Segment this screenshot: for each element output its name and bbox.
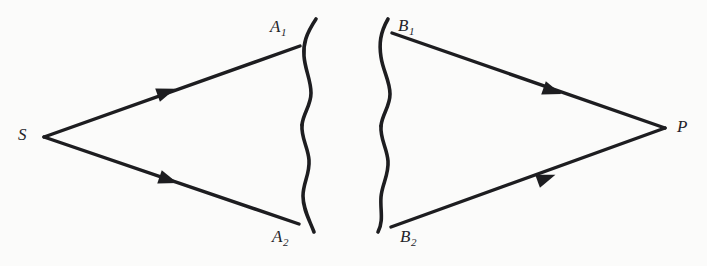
label-point-p: P <box>677 118 687 135</box>
ray-b2-to-p <box>391 128 665 227</box>
ray-s-to-a2 <box>44 137 299 224</box>
diagram-canvas: S A1 A2 B1 B2 P <box>0 0 707 266</box>
label-slit-a1-text: A <box>270 17 280 36</box>
barrier-a-lower-segment <box>302 125 314 232</box>
barrier-a-upper-segment <box>302 19 316 125</box>
label-slit-b1: B1 <box>398 17 414 34</box>
barrier-b-upper-segment <box>380 19 390 126</box>
label-source-s-text: S <box>18 125 27 144</box>
label-slit-b1-text: B <box>398 16 408 35</box>
label-slit-b2: B2 <box>400 228 416 245</box>
barrier-b <box>378 19 390 232</box>
ray-s-to-a2-arrowhead <box>157 170 179 189</box>
label-point-p-text: P <box>677 117 687 136</box>
label-slit-a2: A2 <box>272 228 288 245</box>
diagram-svg <box>0 0 707 266</box>
ray-s-to-a1 <box>44 46 300 137</box>
ray-b1-to-p-line <box>392 33 665 128</box>
label-slit-b1-subscript: 1 <box>409 25 415 37</box>
ray-b2-to-p-line <box>391 128 665 227</box>
label-slit-a1-subscript: 1 <box>281 26 287 38</box>
label-source-s: S <box>18 126 27 143</box>
label-slit-b2-subscript: 2 <box>411 236 417 248</box>
label-slit-a2-subscript: 2 <box>283 236 289 248</box>
barrier-a <box>302 19 316 232</box>
label-slit-b2-text: B <box>400 227 410 246</box>
label-slit-a2-text: A <box>272 227 282 246</box>
ray-b1-to-p <box>392 33 665 128</box>
barrier-b-lower-segment <box>378 126 388 232</box>
label-slit-a1: A1 <box>270 18 286 35</box>
